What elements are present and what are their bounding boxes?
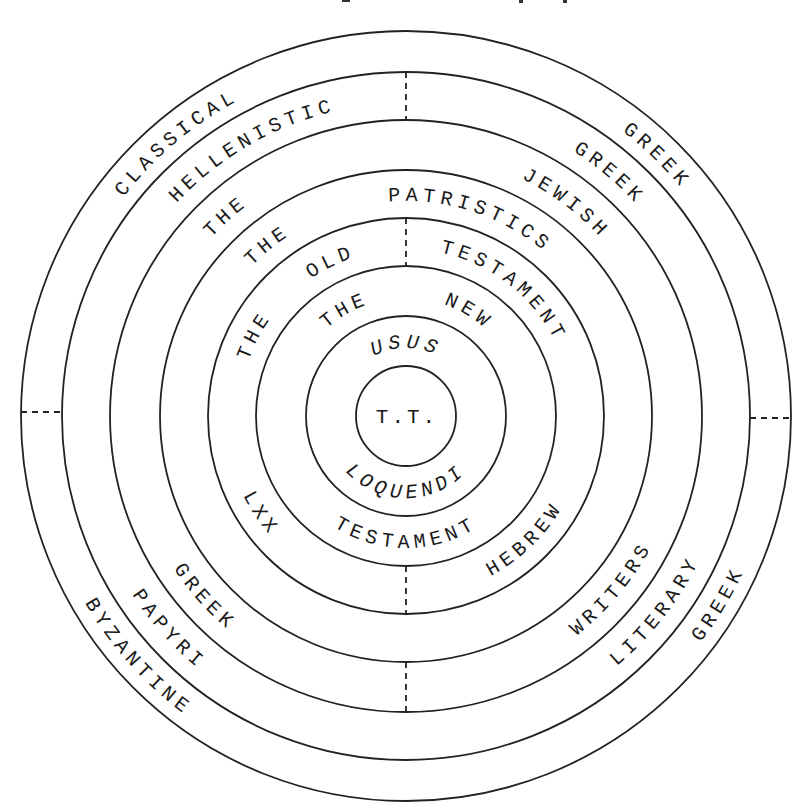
- label-band-5-testament: TESTAMENT: [438, 236, 571, 346]
- label-band-6-the: THE: [316, 287, 373, 333]
- cropped-top-text-fragments: [342, 0, 567, 3]
- label-band-6-new: NEW: [442, 288, 498, 334]
- center-label: T.T.: [376, 406, 438, 429]
- label-band-3-greek_lower: GREEK: [168, 559, 241, 636]
- label-band-5-hebrew: HEBREW: [482, 497, 568, 581]
- label-band-5-the: THE: [232, 306, 277, 362]
- concentric-circle-diagram: CLASSICALGREEKBYZANTINEGREEKHELLENISTICG…: [0, 0, 798, 812]
- label-band-6-testament: TESTAMENT: [331, 512, 482, 554]
- labels: CLASSICALGREEKBYZANTINEGREEKHELLENISTICG…: [80, 85, 750, 721]
- label-band-7-usus: USUS: [367, 331, 445, 362]
